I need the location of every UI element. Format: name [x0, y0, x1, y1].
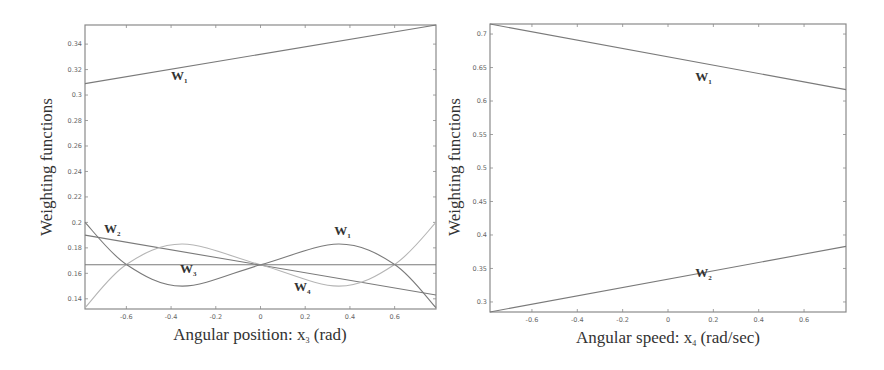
y-tick-label: 0.34 [68, 40, 82, 48]
plot-frame [490, 24, 846, 312]
x-tick-label: -0.6 [526, 316, 539, 324]
y-tick-label: 0.28 [68, 117, 82, 125]
x-tick-label: -0.2 [616, 316, 629, 324]
plot-frame [85, 25, 436, 309]
y-tick-label: 0.45 [473, 198, 487, 206]
y-tick-label: 0.18 [68, 244, 82, 252]
x-tick-label: -0.2 [209, 313, 222, 321]
y-tick-label: 0.2 [72, 219, 82, 227]
y-tick-label: 0.4 [477, 231, 487, 239]
series-line-w2 [490, 246, 846, 312]
x-tick-label: 0.2 [708, 316, 718, 324]
right-y-axis-title: Weighting functions [445, 98, 464, 236]
x-tick-label: -0.4 [165, 313, 178, 321]
curve-label: W1 [334, 223, 351, 240]
x-tick-label: 0.4 [754, 316, 764, 324]
curve-label: W3 [180, 261, 197, 278]
curve-label: W2 [104, 221, 121, 238]
series-line-w1 [490, 24, 846, 90]
y-tick-label: 0.6 [477, 97, 487, 105]
y-tick-label: 0.32 [68, 66, 82, 74]
left-y-axis-title: Weighting functions [37, 98, 56, 236]
x-tick-label: -0.4 [571, 316, 584, 324]
y-tick-label: 0.26 [68, 142, 82, 150]
y-tick-label: 0.16 [68, 270, 82, 278]
curve-label: W1 [695, 69, 712, 86]
y-tick-label: 0.3 [72, 91, 82, 99]
x-tick-label: 0.4 [345, 313, 355, 321]
right-chart-angular-speed: -0.6-0.4-0.200.20.40.60.30.350.40.450.50… [473, 24, 846, 324]
y-tick-label: 0.22 [68, 193, 82, 201]
x-tick-label: 0.6 [389, 313, 399, 321]
y-tick-label: 0.65 [473, 64, 487, 72]
curve-label: W4 [294, 279, 311, 296]
y-tick-label: 0.3 [477, 298, 487, 306]
y-tick-label: 0.55 [473, 131, 487, 139]
right-x-axis-title: Angular speed: x4 (rad/sec) [576, 328, 760, 348]
x-tick-label: 0.6 [799, 316, 809, 324]
y-tick-label: 0.14 [68, 295, 82, 303]
x-tick-label: 0 [258, 313, 262, 321]
x-tick-label: 0 [666, 316, 670, 324]
x-tick-label: -0.6 [120, 313, 133, 321]
series-line-w1 [85, 25, 436, 84]
weighting-functions-figure: -0.6-0.4-0.200.20.40.60.140.160.180.20.2… [0, 0, 884, 370]
curve-label: W1 [171, 68, 188, 85]
x-tick-label: 0.2 [300, 313, 310, 321]
left-x-axis-title: Angular position: x3 (rad) [173, 325, 347, 345]
curve-label: W2 [695, 265, 712, 282]
left-chart-angular-position: -0.6-0.4-0.200.20.40.60.140.160.180.20.2… [68, 25, 436, 321]
y-tick-label: 0.35 [473, 265, 487, 273]
y-tick-label: 0.24 [68, 168, 82, 176]
y-tick-label: 0.5 [477, 164, 487, 172]
y-tick-label: 0.7 [477, 30, 487, 38]
